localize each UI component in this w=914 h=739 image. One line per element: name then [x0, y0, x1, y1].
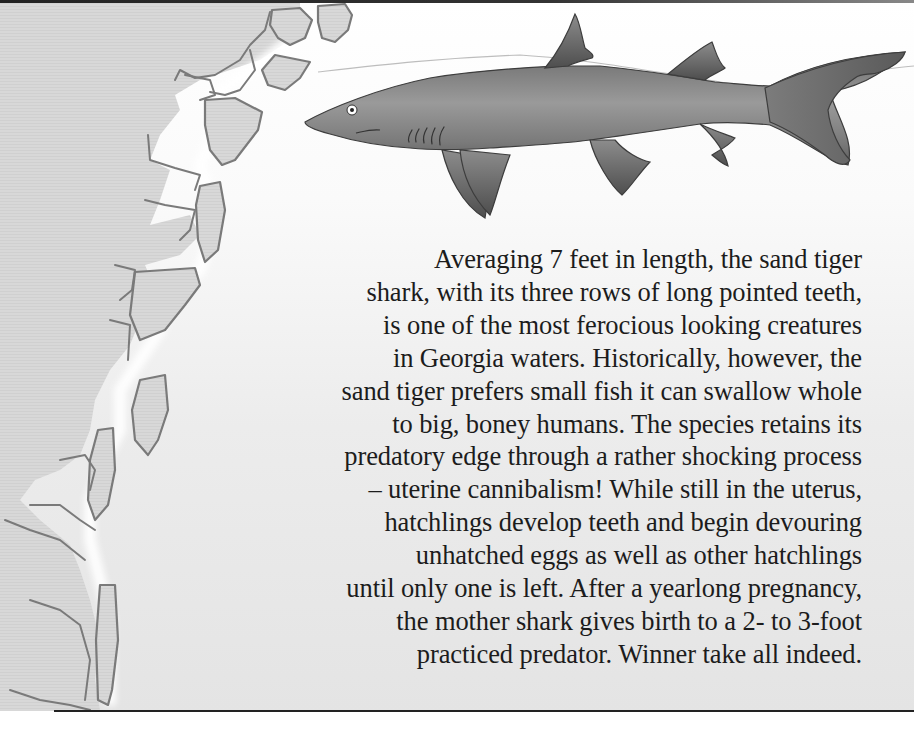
- caption-line: to big, boney humans. The species retain…: [250, 408, 862, 441]
- caption-line: – uterine cannibalism! While still in th…: [250, 473, 862, 506]
- caption-line: the mother shark gives birth to a 2- to …: [250, 605, 862, 638]
- caption-line: Averaging 7 feet in length, the sand tig…: [250, 243, 862, 276]
- document-page: Averaging 7 feet in length, the sand tig…: [0, 0, 914, 739]
- second-dorsal-fin: [668, 42, 725, 80]
- caption-line: practiced predator. Winner take all inde…: [250, 638, 862, 671]
- caption-line: in Georgia waters. Historically, however…: [250, 342, 862, 375]
- top-rule: [0, 0, 914, 3]
- caption-line: sand tiger prefers small fish it can swa…: [250, 375, 862, 408]
- bottom-rule: [54, 710, 914, 712]
- pelvic-fin: [590, 140, 650, 195]
- caption-line: hatchlings develop teeth and begin devou…: [250, 506, 862, 539]
- caption-line: unhatched eggs as well as other hatchlin…: [250, 539, 862, 572]
- caption-line: predatory edge through a rather shocking…: [250, 440, 862, 473]
- illustration-panel: Averaging 7 feet in length, the sand tig…: [0, 0, 914, 711]
- shark-eye: [347, 105, 357, 115]
- first-dorsal-fin: [545, 14, 593, 68]
- caption-paragraph: Averaging 7 feet in length, the sand tig…: [250, 243, 862, 671]
- caption-line: shark, with its three rows of long point…: [250, 276, 862, 309]
- anal-fin: [700, 124, 735, 166]
- caption-line: until only one is left. After a yearlong…: [250, 572, 862, 605]
- caption-line: is one of the most ferocious looking cre…: [250, 309, 862, 342]
